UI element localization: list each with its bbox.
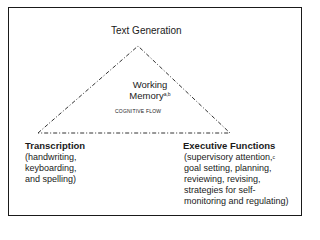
transcription-detail-line: (handwriting, <box>25 152 77 163</box>
transcription-details: (handwriting, keyboarding, and spelling) <box>25 152 77 185</box>
working-memory-line2: Memorya,b <box>119 90 181 101</box>
cognitive-flow-label: COGNITIVE FLOW <box>115 106 161 117</box>
transcription-title: Transcription <box>25 140 85 151</box>
working-memory-line1: Working <box>119 79 181 90</box>
memory-superscript: a,b <box>164 91 171 97</box>
supervisory-attention-text: (supervisory attention, <box>184 152 273 162</box>
transcription-detail-line: keyboarding, <box>25 163 77 174</box>
transcription-detail-line: and spelling) <box>25 174 77 185</box>
executive-detail-line: reviewing, revising, <box>184 174 289 185</box>
working-memory-label: Working Memorya,b <box>119 79 181 101</box>
memory-word: Memory <box>129 90 163 101</box>
executive-detail-line: monitoring and regulating) <box>184 196 289 207</box>
text-generation-label: Text Generation <box>111 25 182 36</box>
executive-functions-details: (supervisory attention,c goal setting, p… <box>184 152 289 207</box>
executive-functions-title: Executive Functions <box>183 140 275 151</box>
executive-detail-line: (supervisory attention,c <box>184 152 289 163</box>
executive-detail-line: strategies for self- <box>184 185 289 196</box>
executive-detail-line: goal setting, planning, <box>184 163 289 174</box>
supervisory-superscript: c <box>273 154 276 160</box>
